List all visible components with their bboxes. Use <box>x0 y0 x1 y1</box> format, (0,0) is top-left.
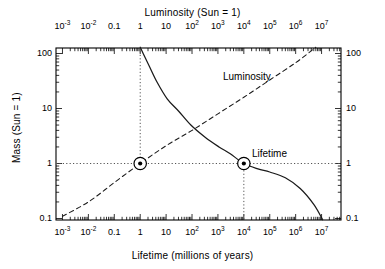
sun-lifetime-marker <box>238 157 250 169</box>
luminosity-curve-label: Luminosity <box>223 71 271 82</box>
lifetime-curve-label: Lifetime <box>252 148 287 159</box>
sun-luminosity-marker <box>134 157 146 169</box>
plot-area <box>0 0 385 269</box>
luminosity-curve <box>62 47 315 216</box>
data-curves <box>62 47 322 220</box>
chart-figure: Luminosity (Sun = 1) Lifetime (millions … <box>0 0 385 269</box>
